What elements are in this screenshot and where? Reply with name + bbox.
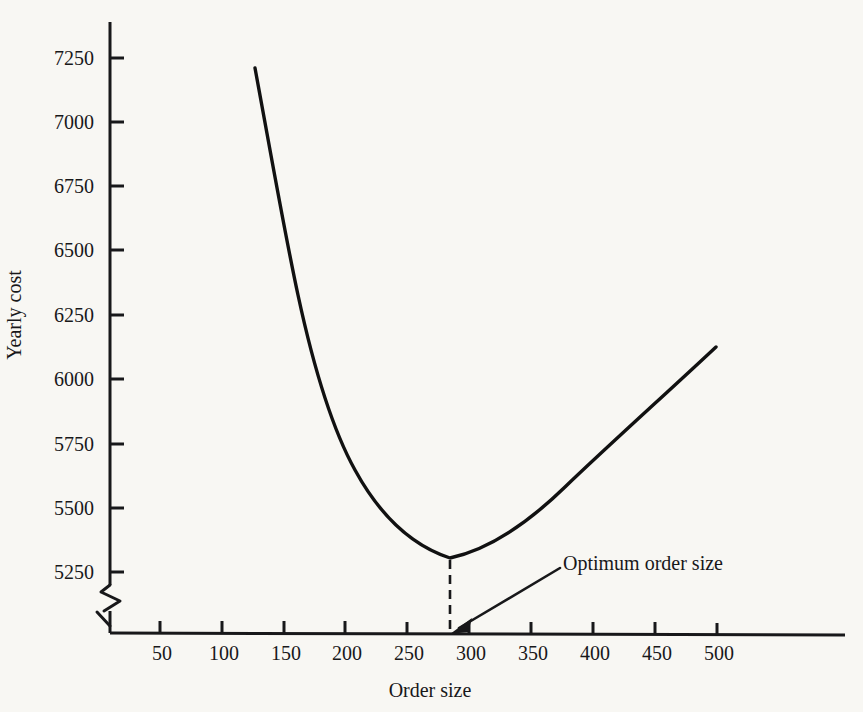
y-tick-label-6500: 6500 xyxy=(10,239,94,262)
x-tick-label-250: 250 xyxy=(394,642,424,665)
x-axis-title: Order size xyxy=(389,679,472,702)
y-axis-break-zigzag xyxy=(101,585,120,611)
optimum-order-size-annotation: Optimum order size xyxy=(563,552,723,575)
y-tick-marks xyxy=(110,58,124,572)
x-tick-label-50: 50 xyxy=(152,642,172,665)
x-tick-label-350: 350 xyxy=(518,642,548,665)
y-tick-label-7250: 7250 xyxy=(10,47,94,70)
y-tick-label-5250: 5250 xyxy=(10,561,94,584)
y-tick-label-5750: 5750 xyxy=(10,433,94,456)
y-tick-label-5500: 5500 xyxy=(10,497,94,520)
y-tick-label-6750: 6750 xyxy=(10,175,94,198)
y-tick-label-7000: 7000 xyxy=(10,111,94,134)
cost-curve xyxy=(255,68,716,558)
x-tick-label-150: 150 xyxy=(271,642,301,665)
y-axis-title: Yearly cost xyxy=(3,270,26,360)
x-axis-line xyxy=(110,633,845,635)
chart-plot-area xyxy=(0,0,863,712)
annotation-arrow-shaft xyxy=(459,568,560,628)
x-tick-label-200: 200 xyxy=(332,642,362,665)
y-axis-origin-flag xyxy=(97,612,110,626)
x-tick-label-300: 300 xyxy=(456,642,486,665)
x-tick-label-450: 450 xyxy=(642,642,672,665)
chart-figure: 7250 7000 6750 6500 6250 6000 5750 5500 … xyxy=(0,0,863,712)
y-tick-label-6000: 6000 xyxy=(10,368,94,391)
x-tick-label-100: 100 xyxy=(209,642,239,665)
x-tick-label-500: 500 xyxy=(704,642,734,665)
x-tick-label-400: 400 xyxy=(580,642,610,665)
